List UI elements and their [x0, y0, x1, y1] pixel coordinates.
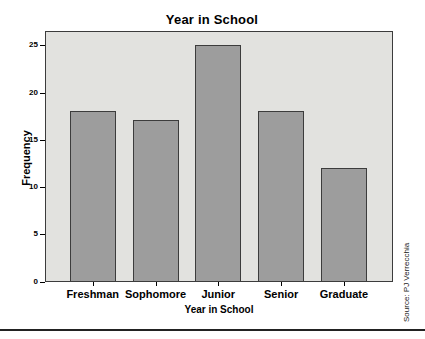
source-credit: Source: PJ Verrecchia: [401, 230, 413, 322]
y-tick-label: 25: [12, 40, 38, 50]
x-tick-label: Senior: [236, 288, 326, 300]
y-tick-label: 5: [12, 229, 38, 239]
x-tick: [93, 282, 94, 286]
x-tick-label: Freshman: [48, 288, 138, 300]
x-tick: [156, 282, 157, 286]
x-tick-label: Sophomore: [111, 288, 201, 300]
bar-freshman: [70, 111, 116, 281]
y-tick-label: 20: [12, 88, 38, 98]
x-axis-title: Year in School: [45, 304, 393, 315]
x-tick-label: Graduate: [299, 288, 389, 300]
bottom-divider-line: [0, 329, 425, 331]
x-tick-label: Junior: [173, 288, 263, 300]
bar-senior: [258, 111, 304, 281]
chart-title: Year in School: [38, 12, 386, 27]
y-axis-title: Frequency: [20, 130, 32, 186]
chart-figure: Year in School 0510152025 FreshmanSophom…: [0, 0, 425, 339]
bar-sophomore: [133, 120, 179, 281]
x-tick: [218, 282, 219, 286]
bar-junior: [195, 45, 241, 281]
bar-graduate: [321, 168, 367, 281]
y-tick-label: 0: [12, 277, 38, 287]
x-tick: [281, 282, 282, 286]
plot-area: [45, 31, 393, 282]
x-tick: [344, 282, 345, 286]
